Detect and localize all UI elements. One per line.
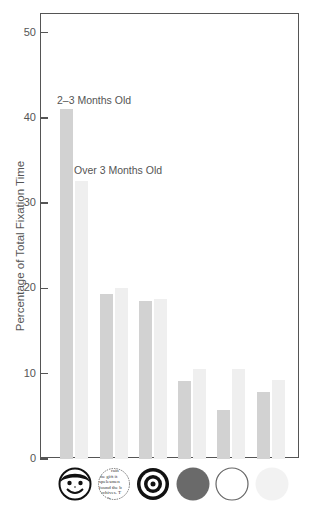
bar-2-3-months bbox=[257, 392, 270, 459]
y-tick bbox=[40, 288, 48, 290]
bar-over-3-months bbox=[75, 181, 88, 459]
bar-over-3-months bbox=[154, 299, 167, 459]
svg-text:found the b: found the b bbox=[99, 485, 122, 490]
face-icon bbox=[58, 467, 92, 501]
newsprint-icon: rainthe gift itspelesmenfound the barchi… bbox=[97, 467, 131, 501]
y-tick-label: 20 bbox=[8, 281, 36, 293]
y-axis-label: Percentage of Total Fixation Time bbox=[14, 156, 26, 336]
legend-label-over-3-months: Over 3 Months Old bbox=[74, 164, 162, 176]
white-disc-icon bbox=[215, 467, 249, 501]
svg-text:rain: rain bbox=[111, 468, 119, 473]
bar-2-3-months bbox=[139, 301, 152, 459]
bar-2-3-months bbox=[60, 109, 73, 459]
y-tick-label: 0 bbox=[8, 452, 36, 464]
bar-over-3-months bbox=[115, 288, 128, 459]
y-tick-label: 40 bbox=[8, 111, 36, 123]
bar-over-3-months bbox=[272, 380, 285, 459]
bar-2-3-months bbox=[100, 294, 113, 459]
legend-label-2-3-months: 2–3 Months Old bbox=[57, 94, 131, 106]
y-tick-label: 30 bbox=[8, 196, 36, 208]
y-tick bbox=[40, 373, 48, 375]
y-tick bbox=[40, 32, 48, 34]
yellow-disc-icon bbox=[255, 467, 289, 501]
bar-2-3-months bbox=[217, 410, 230, 459]
y-tick bbox=[40, 117, 48, 119]
bar-2-3-months bbox=[178, 381, 191, 459]
y-tick-label: 10 bbox=[8, 367, 36, 379]
y-tick bbox=[40, 458, 48, 460]
svg-text:spelesmen: spelesmen bbox=[99, 479, 120, 484]
y-tick bbox=[40, 202, 48, 204]
bar-over-3-months bbox=[193, 369, 206, 459]
bar-over-3-months bbox=[232, 369, 245, 459]
y-tick-label: 50 bbox=[8, 26, 36, 38]
red-disc-icon bbox=[176, 467, 210, 501]
bullseye-icon bbox=[136, 467, 170, 501]
svg-text:archives. T: archives. T bbox=[99, 490, 121, 495]
